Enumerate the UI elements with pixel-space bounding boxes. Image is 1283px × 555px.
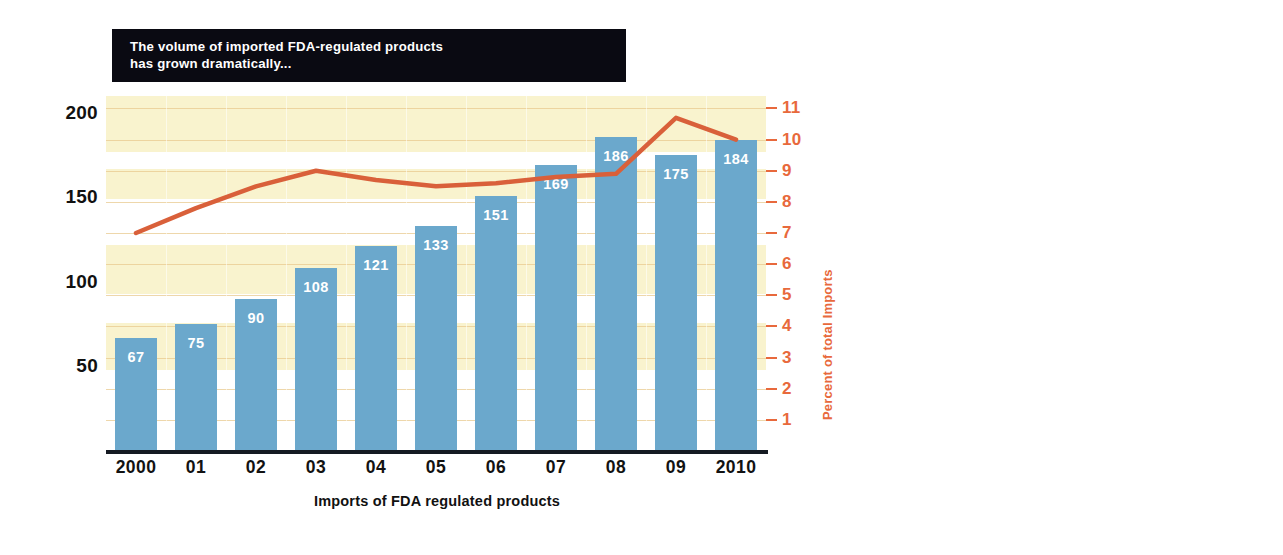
y-axis-right-tick — [766, 419, 777, 421]
y-axis-right-tick-label: 4 — [782, 316, 792, 336]
x-axis-tick-label: 2010 — [706, 457, 766, 478]
y-axis-right-tick — [766, 294, 777, 296]
x-axis-tick-label: 04 — [346, 457, 406, 478]
left-banner-line-1: The volume of imported FDA-regulated pro… — [130, 38, 626, 55]
x-axis-tick-label: 08 — [586, 457, 646, 478]
x-axis-tick-label: 06 — [466, 457, 526, 478]
x-axis-tick-label: 03 — [286, 457, 346, 478]
y-axis-right-tick — [766, 107, 777, 109]
y-axis-right-tick — [766, 170, 777, 172]
right-chart-panel: ...along with growth in foreign sourcing… — [830, 0, 1283, 555]
y-axis-right-tick-label: 6 — [782, 254, 792, 274]
infographic-page: The volume of imported FDA-regulated pro… — [0, 0, 1283, 555]
y-axis-right-tick — [766, 232, 777, 234]
left-banner-line-2: has grown dramatically... — [130, 55, 626, 72]
y-axis-left-tick-label: 100 — [65, 271, 98, 293]
x-axis-tick-label: 07 — [526, 457, 586, 478]
x-axis-tick-label: 05 — [406, 457, 466, 478]
y-axis-right-tick-label: 8 — [782, 192, 792, 212]
y-axis-right-tick — [766, 139, 777, 141]
y-axis-right-tick-label: 9 — [782, 161, 792, 181]
y-axis-left-tick-label: 200 — [65, 102, 98, 124]
x-axis-tick-label: 09 — [646, 457, 706, 478]
x-axis-tick-label: 02 — [226, 457, 286, 478]
y-axis-right-tick — [766, 263, 777, 265]
y-axis-right-tick-label: 7 — [782, 223, 792, 243]
x-axis-tick-label: 2000 — [106, 457, 166, 478]
y-axis-right-tick-label: 10 — [782, 130, 802, 150]
x-axis-title: Imports of FDA regulated products — [106, 493, 768, 509]
y-axis-right-tick-label: 3 — [782, 348, 792, 368]
y-axis-right-tick-label: 11 — [782, 98, 801, 118]
x-axis-labels: 20000102030405060708092010 — [106, 457, 768, 487]
y-axis-right-tick-label: 5 — [782, 285, 792, 305]
y-axis-left-title: USD Billions — [0, 147, 1, 230]
y-axis-right-tick — [766, 357, 777, 359]
bar-chart-plot-area: 677590108121133151169186175184 — [106, 96, 766, 451]
y-axis-right-tick — [766, 201, 777, 203]
y-axis-right-tick-label: 1 — [782, 410, 792, 430]
percent-of-total-imports-line — [106, 96, 766, 451]
y-axis-left-tick-label: 50 — [76, 355, 98, 377]
y-axis-left-tick-label: 150 — [65, 186, 98, 208]
left-panel-banner: The volume of imported FDA-regulated pro… — [112, 29, 626, 82]
y-axis-left-labels: 50100150200 — [24, 96, 98, 451]
y-axis-right-tick — [766, 388, 777, 390]
x-axis-tick-label: 01 — [166, 457, 226, 478]
y-axis-right-labels: 1234567891011 — [772, 96, 812, 451]
y-axis-right-tick-label: 2 — [782, 379, 792, 399]
x-axis-baseline — [106, 450, 768, 454]
left-chart-panel: The volume of imported FDA-regulated pro… — [0, 0, 830, 555]
y-axis-right-tick — [766, 325, 777, 327]
